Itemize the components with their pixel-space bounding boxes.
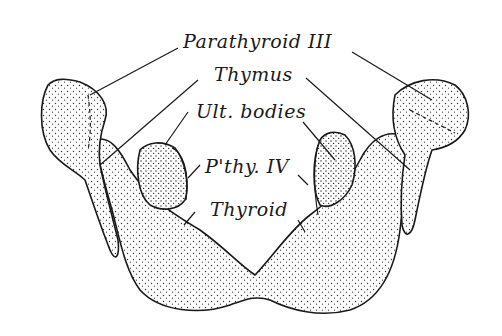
label-pthy-iv: P'thy. IV [205, 155, 289, 177]
label-ult-bodies: Ult. bodies [196, 100, 306, 122]
right-parathyroid-iii-thymus [393, 80, 468, 234]
embryo-diagram: Parathyroid III Thymus Ult. bodies P'thy… [0, 0, 502, 336]
label-parathyroid-iii: Parathyroid III [183, 30, 332, 52]
label-thymus: Thymus [214, 63, 293, 85]
label-thyroid: Thyroid [210, 198, 288, 220]
left-ultimobranchial-body [138, 143, 187, 209]
